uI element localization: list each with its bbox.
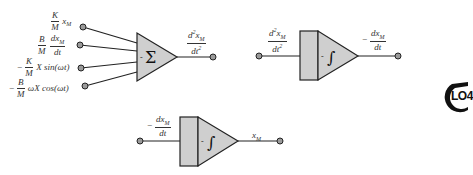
summer-block [137,33,177,81]
integrator1-output-dot[interactable] [395,53,401,59]
integrator2-input-dot[interactable] [137,138,143,144]
integrator2-block [198,117,238,166]
integrator2-output-label: xM [252,131,261,142]
summer-input-dots[interactable] [77,24,88,89]
integrator1-box [300,31,318,80]
integral-icon: ∫ [207,133,215,152]
lo-badge-label: LO4 [451,89,473,103]
summer-input-label-1: KM xM [50,11,71,32]
integrator1-input-label: d2xM dt2 [267,27,288,54]
integrator2-output-dot[interactable] [277,138,283,144]
summer-input-lines [80,27,137,86]
summer-input-label-4: −BM ωX cos(ωt) [9,78,69,99]
integrator2-sign: - [201,137,204,146]
summer-output-label: d2xM dt2 [186,29,207,56]
summer-output-dot[interactable] [210,54,216,60]
integrator1-sign: - [321,52,324,61]
summer-input-label-3: −KM X sin(ωt) [17,57,69,78]
sigma-icon: Σ [145,48,156,67]
integral-icon: ∫ [327,48,335,67]
integrator2-input-label: − dxM dt [147,115,172,138]
summer-input-label-2: BM dxMdt [37,34,66,57]
integrator1-input-dot[interactable] [256,53,262,59]
integrator1-output-label: − dxM dt [362,29,387,52]
integrator1-block [318,31,358,80]
integrator2-box [180,117,198,166]
summer-sign: - [140,53,143,62]
